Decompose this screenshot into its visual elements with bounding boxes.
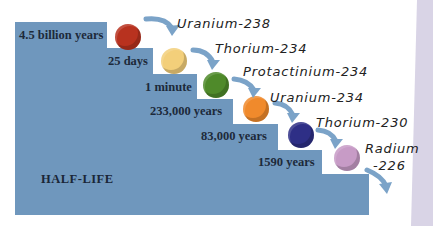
isotope-radium-226-name: Radium xyxy=(365,141,420,156)
isotope-radium-226-number: -226 xyxy=(373,158,406,173)
isotope-uranium-238: Uranium-238 xyxy=(177,16,271,31)
isotope-uranium-234: Uranium-234 xyxy=(270,90,364,105)
isotope-thorium-230: Thorium-230 xyxy=(316,115,408,130)
isotope-protactinium-234: Protactinium-234 xyxy=(243,64,368,79)
decay-arrows xyxy=(0,0,433,226)
isotope-thorium-234: Thorium-234 xyxy=(215,41,307,56)
